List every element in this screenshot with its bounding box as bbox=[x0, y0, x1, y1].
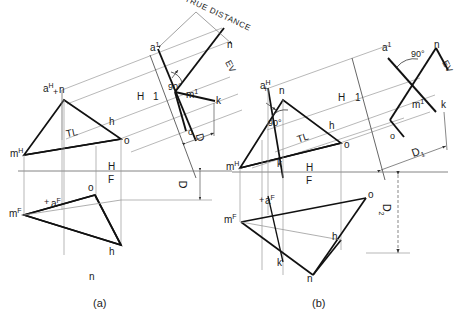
panel-b-front-view-triangle bbox=[241, 198, 366, 275]
panel-a-foldlabel-h-hf: H bbox=[108, 162, 115, 172]
panel-b-label-d2: D2 bbox=[378, 204, 391, 216]
panel-b-label-n-front: n bbox=[307, 274, 313, 284]
panel-b-label-h-top: h bbox=[329, 121, 335, 131]
panel-a-label-90deg: 90° bbox=[168, 83, 182, 92]
panel-b-foldlabel-f-hf: F bbox=[306, 176, 312, 186]
panel-b-crosshair-a-front: + bbox=[259, 196, 264, 205]
panel-b-label-h-front: h bbox=[332, 232, 338, 242]
panel-a-dim-d-front bbox=[121, 171, 212, 200]
panel-a-label-o-front: o bbox=[88, 183, 94, 193]
panel-b-crosshair-a-top: + bbox=[263, 85, 268, 94]
panel-a-crosshair-a-top: + bbox=[53, 88, 58, 97]
panel-b-vertical-projectors bbox=[240, 88, 341, 275]
panel-b-label-o-front: o bbox=[368, 190, 374, 200]
panel-a-top-view-tl-line bbox=[24, 139, 121, 155]
panel-b-label-n-aux: n bbox=[434, 40, 440, 50]
panel-b-label-o-aux: o bbox=[390, 132, 395, 141]
panel-b-label-k-front: k bbox=[277, 258, 282, 268]
panel-b-aux-right-angle-arc bbox=[397, 59, 418, 67]
panel-b-label-m1-aux: m1 bbox=[412, 98, 424, 110]
panel-a-label-h-front: h bbox=[109, 247, 115, 257]
panel-a-label-m-top: mH bbox=[10, 147, 23, 159]
panel-b-label-m-top: mH bbox=[226, 160, 239, 172]
panel-a-label-d-front: D bbox=[177, 181, 188, 189]
drawing-sheet: aH + mH n h o TL H F H 1 + aF mF h o n a… bbox=[0, 0, 469, 329]
panel-a-label-m-front: mF bbox=[9, 207, 22, 219]
panel-a-foldlabel-f-hf: F bbox=[108, 175, 114, 185]
panel-b-label-o-top: o bbox=[344, 140, 350, 150]
panel-a-label-a-front: aF bbox=[51, 197, 61, 209]
panel-b-label-k-aux: k bbox=[441, 100, 446, 110]
panel-a-label-n-aux: n bbox=[227, 40, 233, 50]
panel-b-label-90deg-top: 90° bbox=[268, 119, 282, 128]
panel-a-label-o-top: o bbox=[124, 136, 130, 146]
panel-b-foldlabel-1-h1: 1 bbox=[355, 93, 361, 103]
panel-a-foldlabel-h-h1: H bbox=[137, 92, 144, 102]
panel-a-foldlabel-1-h1: 1 bbox=[153, 92, 159, 102]
panel-a-crosshair-a-front: + bbox=[44, 198, 49, 207]
panel-a-front-view-h-line bbox=[24, 200, 121, 215]
panel-a-label-m1-aux: m1 bbox=[186, 88, 198, 100]
panel-a-label-a1-aux: a1 bbox=[150, 41, 159, 53]
panel-b-caption: (b) bbox=[312, 298, 325, 309]
panel-b-label-k-top: k bbox=[277, 159, 282, 169]
panel-a-label-o-aux: o bbox=[188, 128, 193, 137]
panel-b-foldlabel-h-hf: H bbox=[306, 163, 313, 173]
panel-b-label-a1-aux: a1 bbox=[382, 41, 391, 53]
panel-b-label-m-front: mF bbox=[224, 213, 237, 225]
panel-b-label-n-top: n bbox=[279, 86, 285, 96]
panel-a-label-k-aux: k bbox=[216, 96, 221, 106]
panel-b-label-a-front: aF bbox=[265, 194, 275, 206]
panel-a-label-n-top: n bbox=[59, 85, 65, 95]
panel-a-caption: (a) bbox=[93, 298, 106, 309]
panel-b-label-90deg-aux: 90° bbox=[411, 50, 425, 59]
panel-a-graphics bbox=[18, 12, 242, 255]
panel-a-label-n-front: n bbox=[89, 272, 95, 282]
panel-a-label-h-top: h bbox=[109, 117, 115, 127]
panel-b-foldlabel-h-h1: H bbox=[338, 93, 345, 103]
panel-b-front-view-h-line bbox=[241, 222, 341, 240]
panel-b-fold-line-h1 bbox=[352, 58, 385, 180]
